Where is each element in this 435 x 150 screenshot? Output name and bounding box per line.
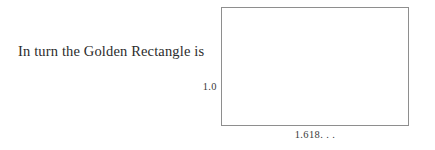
rectangle-width-label: 1.618. . . bbox=[221, 128, 409, 141]
golden-rectangle-figure: In turn the Golden Rectangle is 1.0 1.61… bbox=[0, 0, 435, 150]
caption-text: In turn the Golden Rectangle is bbox=[18, 42, 208, 61]
golden-rectangle-shape bbox=[221, 7, 409, 126]
rectangle-height-label: 1.0 bbox=[186, 80, 217, 93]
